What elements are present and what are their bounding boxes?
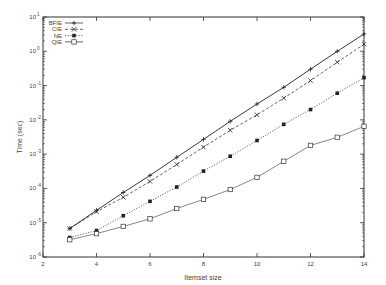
y-tick-exponent: 1 xyxy=(37,12,40,17)
series-ne xyxy=(68,76,366,239)
y-tick-exponent: -5 xyxy=(37,218,41,223)
y-axis-label: Time (sec) xyxy=(16,121,24,154)
series-bfie xyxy=(68,32,367,231)
y-tick-label: 10 xyxy=(29,185,36,191)
y-tick-exponent: -2 xyxy=(37,115,41,120)
y-tick-exponent: -1 xyxy=(37,81,41,86)
y-tick-label: 10 xyxy=(29,48,36,54)
y-tick-label: 10 xyxy=(29,220,36,226)
y-tick-exponent: -4 xyxy=(37,183,41,188)
series-cie xyxy=(68,42,367,231)
y-tick-label: 10 xyxy=(29,14,36,20)
legend-label: BFIE xyxy=(49,20,62,26)
x-axis-ticks: 2468101214 xyxy=(41,17,368,267)
plot-frame xyxy=(43,17,364,257)
legend: BFIECIENEQIE xyxy=(49,20,83,45)
legend-label: NE xyxy=(54,33,62,39)
line-chart: 10110010-110-210-310-410-510-6 246810121… xyxy=(0,0,386,285)
x-tick-label: 2 xyxy=(41,261,45,267)
legend-label: QIE xyxy=(52,39,62,45)
x-tick-label: 10 xyxy=(254,261,261,267)
x-axis-label: Itemset size xyxy=(184,274,221,281)
y-tick-label: 10 xyxy=(29,83,36,89)
x-tick-label: 8 xyxy=(202,261,206,267)
y-tick-exponent: -6 xyxy=(37,252,41,257)
y-tick-label: 10 xyxy=(29,151,36,157)
y-tick-exponent: -3 xyxy=(37,149,41,154)
y-tick-label: 10 xyxy=(29,254,36,260)
legend-label: CIE xyxy=(52,26,62,32)
series-qie xyxy=(68,124,367,242)
y-tick-exponent: 0 xyxy=(37,46,40,51)
data-series xyxy=(68,32,367,242)
x-tick-label: 14 xyxy=(361,261,368,267)
x-tick-label: 4 xyxy=(95,261,99,267)
x-tick-label: 12 xyxy=(307,261,314,267)
y-tick-label: 10 xyxy=(29,117,36,123)
x-tick-label: 6 xyxy=(148,261,152,267)
